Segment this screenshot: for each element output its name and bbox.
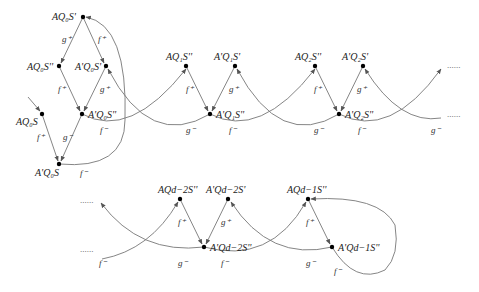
node-AQ0S [40,112,44,116]
node-AQ1S2 [184,64,188,68]
label-AQ0S: AQ₀S [15,116,38,127]
label-AQ1S2: AQ₁S'' [165,51,193,62]
label-ApQd1S2: A'Qd−1S'' [337,242,380,253]
edge-label-f-plus: f⁺ [314,84,323,94]
edge-g-minus-incoming-ApQ2S1 [365,69,441,119]
edge-label-g-plus: g⁺ [221,217,232,227]
edge-label-g-minus: g⁻ [178,258,189,268]
edge-label-g-plus: g⁺ [357,84,368,94]
edge-label-f-minus: f⁻ [358,125,367,135]
edge-label-g-plus: g⁺ [100,84,111,94]
edge-ApQd2S2-g-minus-back [101,203,204,248]
ellipsis-bottom-left-lower: ...... [80,244,94,254]
edge-label-f-minus: f⁻ [221,258,230,268]
node-ApQd2S1 [226,197,230,201]
edge-label-g-minus: g⁻ [186,125,197,135]
label-ApQ2S1: A'Q₂S' [341,51,369,62]
node-ApQ0S1 [104,64,108,68]
edge-label-f-minus: f⁻ [229,125,238,135]
node-ApQ1S2 [208,112,212,116]
label-ApQd2S1: A'Qd−2S' [205,184,246,195]
label-AQ2S2: AQ₂S'' [294,51,322,62]
edge-ApQd1S2-loop-to-AQd1S2 [311,199,396,275]
edge-label-g-minus: g⁻ [314,125,325,135]
node-ApQd2S2 [202,245,206,249]
edge-label-g-minus: g⁻ [63,132,74,142]
edge-label-g-plus: g⁺ [229,84,240,94]
edge-label-f-minus: f⁻ [100,125,109,135]
node-ApQ2S2 [337,112,341,116]
label-ApQ0S2: A'Q₀S'' [87,109,117,120]
ellipsis-bottom-left-upper: ...... [80,195,94,205]
label-ApQ1S1: A'Q₁S' [213,51,241,62]
node-ApQ0S2 [80,112,84,116]
edge-label-f-plus: f⁺ [37,132,46,142]
edge-label-f-plus: f⁺ [98,34,107,44]
node-ApQd1S2 [330,245,334,249]
ellipsis-top-right-upper: ...... [447,60,461,70]
ellipsis-top-right-lower: ...... [447,109,461,119]
node-ApQ0S [57,162,61,166]
edge-label-f-plus: f⁺ [58,84,67,94]
edge-label-f-plus: f⁺ [306,217,315,227]
state-transition-diagram: AQ₀S' AQ₀S'' A'Q₀S' AQ₀S A'Q₀S'' A'Q₀S A… [0,0,479,292]
label-AQd1S2: AQd−1S'' [286,184,327,195]
edge-label-g-minus: g⁻ [306,258,317,268]
edge-incoming-AQ0S [28,97,40,111]
edge-ApQ2S2-g-minus-back [237,69,339,125]
node-ApQ1S1 [233,64,237,68]
node-AQ0S1 [81,15,85,19]
node-ApQ2S1 [361,64,365,68]
label-ApQ0S: A'Q₀S [34,167,59,178]
label-AQ0S2: AQ₀S'' [26,61,54,72]
label-AQ0S1: AQ₀S' [51,11,77,22]
node-AQ2S2 [313,64,317,68]
edge-label-f-plus: f⁺ [186,84,195,94]
edge-label-f-minus: f⁻ [80,168,89,178]
ellipsis-markers: ...... ...... ...... ...... [80,60,461,254]
edge-label-f-plus: f⁺ [178,217,187,227]
node-AQ0S2 [57,64,61,68]
label-ApQ0S1: A'Q₀S' [74,61,102,72]
edge-label-g-minus: g⁻ [431,125,442,135]
label-ApQ2S2: A'Q₂S'' [344,109,374,120]
node-AQd2S2 [178,197,182,201]
node-AQd1S2 [306,197,310,201]
label-ApQ1S2: A'Q₁S'' [215,109,245,120]
edge-f-minus-incoming-AQd2S2 [102,202,178,259]
edge-label-f-minus: f⁻ [334,266,343,276]
edge-label-f-minus: f⁻ [99,258,108,268]
label-AQd2S2: AQd−2S'' [157,184,198,195]
edge-label-g-plus: g⁺ [62,34,73,44]
label-ApQd2S2: A'Qd−2S'' [209,242,252,253]
